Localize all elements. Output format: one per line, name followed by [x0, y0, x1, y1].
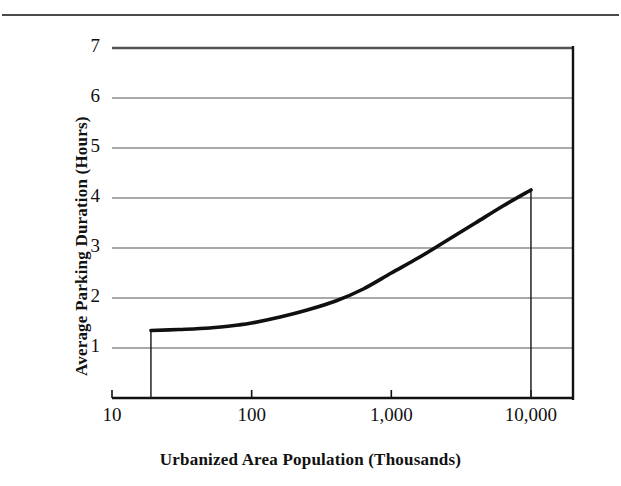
x-tick-label-10: 10: [67, 404, 157, 426]
chart-plot-area: 1234567 101001,00010,000: [0, 0, 621, 486]
y-tick-label-6: 6: [78, 85, 100, 107]
x-tick-label-1000: 1,000: [346, 404, 436, 426]
data-curve-average-parking-duration: [151, 190, 531, 331]
y-axis-title: Average Parking Duration (Hours): [72, 116, 92, 376]
y-tick-label-7: 7: [78, 35, 100, 57]
drop-lines-group: [151, 190, 531, 398]
x-tick-label-10000: 10,000: [486, 404, 576, 426]
x-axis-title: Urbanized Area Population (Thousands): [0, 450, 621, 470]
gridlines-group: [112, 48, 573, 348]
x-tick-label-100: 100: [207, 404, 297, 426]
chart-figure: 1234567 101001,00010,000 Average Parking…: [0, 0, 621, 486]
plot-frame: [112, 46, 573, 400]
